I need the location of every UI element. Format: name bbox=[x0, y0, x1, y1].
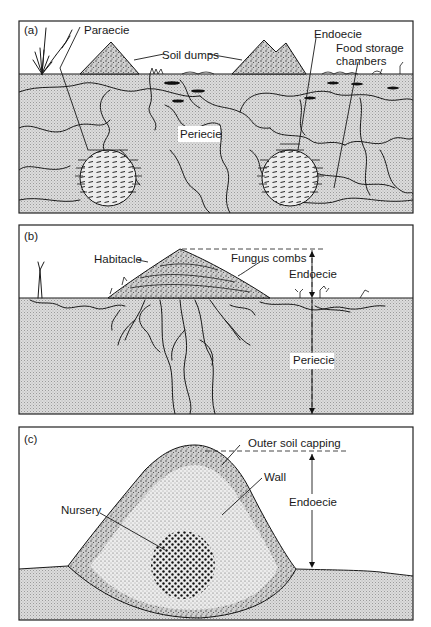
label-habitacle: Habitacle bbox=[94, 253, 142, 265]
label-nursery: Nursery bbox=[61, 504, 102, 516]
panel-b: (b) Habitacle Fungus combs Endoecie Peri… bbox=[19, 225, 413, 414]
label-periecie-b: Periecie bbox=[293, 354, 335, 366]
label-endoecie-c: Endoecie bbox=[289, 496, 337, 508]
soil-dump-right bbox=[232, 40, 306, 74]
label-periecie-a: Periecie bbox=[180, 128, 222, 140]
label-wall: Wall bbox=[264, 471, 286, 483]
label-fungus-combs: Fungus combs bbox=[231, 252, 307, 264]
panel-c-endoecie-arrow bbox=[309, 454, 315, 568]
label-endoecie-a: Endoecie bbox=[314, 28, 362, 40]
label-endoecie-b: Endoecie bbox=[289, 268, 337, 280]
panel-a-tag: (a) bbox=[24, 24, 38, 36]
panel-c: (c) Outer soil capping Wall Endoecie Nur… bbox=[19, 427, 413, 620]
dead-tree-icon bbox=[38, 262, 44, 298]
termite-nest-figure: (a) Paraecie Soil dumps Endoecie Food st… bbox=[0, 0, 431, 627]
label-soil-dumps: Soil dumps bbox=[162, 49, 219, 61]
label-paraecie: Paraecie bbox=[84, 24, 129, 36]
soil-dump-left bbox=[80, 42, 139, 74]
panel-c-nursery bbox=[151, 531, 215, 599]
panel-c-tag: (c) bbox=[24, 433, 38, 445]
panel-b-tag: (b) bbox=[24, 230, 38, 242]
grass-tuft-icon bbox=[33, 28, 72, 74]
label-food-storage-line1: Food storage bbox=[336, 42, 404, 54]
label-outer-soil-capping: Outer soil capping bbox=[248, 437, 341, 449]
panel-b-soil bbox=[19, 298, 413, 414]
panel-a: (a) Paraecie Soil dumps Endoecie Food st… bbox=[19, 21, 413, 213]
label-food-storage-line2: chambers bbox=[336, 55, 387, 67]
